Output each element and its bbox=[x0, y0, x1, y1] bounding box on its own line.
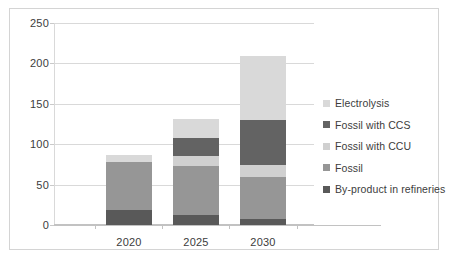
y-axis-tick-label: 100 bbox=[30, 138, 49, 150]
y-axis-tick-mark bbox=[50, 104, 54, 105]
y-axis-tick-mark bbox=[50, 23, 54, 24]
legend-item[interactable]: Fossil with CCS bbox=[323, 119, 445, 131]
bar-segment[interactable] bbox=[240, 177, 286, 219]
plot-area: 050100150200250 202020252030 bbox=[54, 23, 314, 225]
chart-container: 050100150200250 202020252030 Electrolysi… bbox=[9, 8, 439, 250]
bar-segment[interactable] bbox=[173, 119, 219, 138]
chart-legend: ElectrolysisFossil with CCSFossil with C… bbox=[323, 97, 445, 195]
bar-segment[interactable] bbox=[173, 215, 219, 226]
bar-segment[interactable] bbox=[173, 138, 219, 156]
bar-segment[interactable] bbox=[240, 56, 286, 120]
x-axis-tick-label: 2025 bbox=[173, 236, 219, 248]
bar-segment[interactable] bbox=[106, 210, 152, 225]
bar-segment[interactable] bbox=[173, 166, 219, 214]
y-axis-line bbox=[54, 23, 55, 225]
gridline bbox=[54, 23, 314, 24]
y-axis-tick-label: 50 bbox=[36, 179, 49, 191]
legend-item[interactable]: Fossil with CCU bbox=[323, 140, 445, 152]
legend-label: Fossil bbox=[335, 162, 363, 174]
bar-segment[interactable] bbox=[240, 165, 286, 176]
y-axis-tick-label: 0 bbox=[43, 219, 49, 231]
bar-segment[interactable] bbox=[106, 162, 152, 210]
bar-segment[interactable] bbox=[106, 155, 152, 162]
legend-swatch-icon bbox=[323, 121, 330, 128]
legend-item[interactable]: Electrolysis bbox=[323, 97, 445, 109]
x-axis-tick-label: 2020 bbox=[106, 236, 152, 248]
legend-label: By-product in refineries bbox=[335, 183, 445, 195]
x-axis-extension bbox=[54, 225, 381, 226]
legend-swatch-icon bbox=[323, 100, 330, 107]
bar-stack-2030[interactable]: 2030 bbox=[240, 56, 286, 225]
legend-item[interactable]: Fossil bbox=[323, 162, 445, 174]
bar-segment[interactable] bbox=[173, 156, 219, 167]
x-axis-tick-label: 2030 bbox=[240, 236, 286, 248]
y-axis-tick-mark bbox=[50, 144, 54, 145]
legend-label: Fossil with CCS bbox=[335, 119, 411, 131]
bar-segment[interactable] bbox=[240, 120, 286, 165]
legend-swatch-icon bbox=[323, 143, 330, 150]
legend-label: Fossil with CCU bbox=[335, 140, 411, 152]
y-axis-tick-label: 200 bbox=[30, 57, 49, 69]
y-axis-tick-label: 150 bbox=[30, 98, 49, 110]
legend-item[interactable]: By-product in refineries bbox=[323, 183, 445, 195]
legend-swatch-icon bbox=[323, 164, 330, 171]
bar-stack-2025[interactable]: 2025 bbox=[173, 119, 219, 225]
legend-label: Electrolysis bbox=[335, 97, 389, 109]
legend-swatch-icon bbox=[323, 186, 330, 193]
y-axis-tick-mark bbox=[50, 63, 54, 64]
y-axis-tick-mark bbox=[50, 185, 54, 186]
y-axis-tick-label: 250 bbox=[30, 17, 49, 29]
bar-stack-2020[interactable]: 2020 bbox=[106, 155, 152, 225]
